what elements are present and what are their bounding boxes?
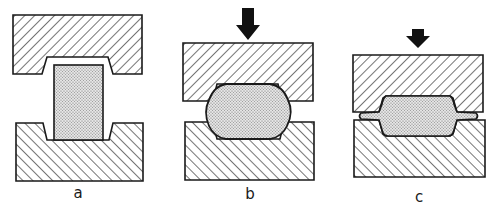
panel-label-c: c (415, 188, 423, 206)
force-arrow-icon (236, 8, 260, 40)
panel-label-b: b (245, 185, 255, 203)
workpiece (206, 84, 291, 139)
forging-diagram: a b c (0, 0, 499, 212)
panel-c: c (353, 29, 485, 206)
panel-label-a: a (73, 184, 82, 202)
panel-b: b (183, 8, 314, 203)
billet (54, 65, 103, 140)
force-arrow-icon (406, 29, 430, 48)
panel-a: a (13, 15, 143, 202)
